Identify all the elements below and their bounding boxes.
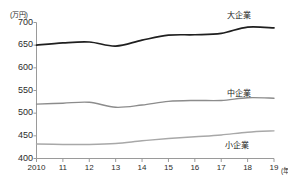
x-tick-label: 18: [241, 163, 255, 172]
x-tick-label: 12: [82, 163, 96, 172]
x-tick-label: 14: [135, 163, 149, 172]
series-label-1: 大企業: [227, 9, 250, 20]
data-series-lines: [37, 27, 275, 145]
x-axis-unit-label: (年): [281, 165, 288, 175]
x-tick-label: 16: [188, 163, 202, 172]
line-chart: (万円) 700650600550500450400 2010111213141…: [0, 0, 288, 179]
series-line-2: [37, 98, 275, 108]
series-line-1: [37, 27, 275, 46]
x-tick-label: 13: [109, 163, 123, 172]
x-tick-label: 2010: [24, 163, 50, 172]
series-label-3: 小企業: [225, 139, 248, 150]
series-label-2: 中企業: [227, 87, 250, 98]
x-tick-label: 11: [56, 163, 70, 172]
x-tick-label: 19: [267, 163, 281, 172]
x-tick-label: 15: [161, 163, 175, 172]
x-tick-label: 17: [214, 163, 228, 172]
